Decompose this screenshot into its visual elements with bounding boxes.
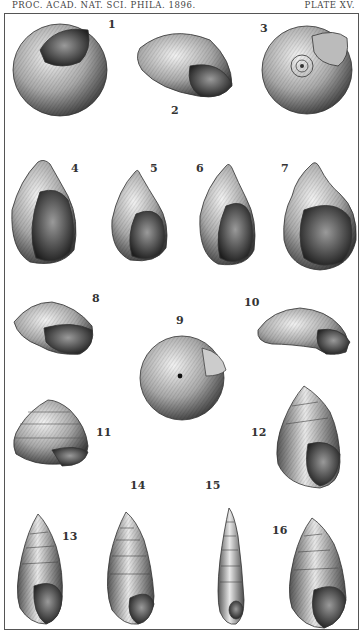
- figure-number-16: 16: [272, 524, 287, 537]
- figure-number-3: 3: [260, 22, 268, 35]
- shell-figure-16: [289, 518, 346, 628]
- figure-number-12: 12: [251, 426, 266, 439]
- shell-figure-8: [14, 302, 93, 354]
- shell-figure-3: [262, 26, 352, 114]
- shell-figure-11: [14, 400, 88, 466]
- figure-number-13: 13: [62, 530, 77, 543]
- shell-figure-13: [17, 514, 62, 624]
- shell-figure-15: [218, 508, 244, 624]
- figure-number-9: 9: [176, 314, 184, 327]
- figure-number-5: 5: [150, 162, 158, 175]
- figure-number-1: 1: [108, 18, 116, 31]
- shell-figure-1: [13, 24, 107, 116]
- shell-figure-9: [140, 336, 226, 420]
- figure-number-4: 4: [71, 162, 79, 175]
- shell-figure-12: [277, 386, 340, 488]
- shell-figure-10: [258, 308, 350, 354]
- figure-number-14: 14: [130, 479, 145, 492]
- figure-number-7: 7: [281, 162, 289, 175]
- figure-number-10: 10: [244, 296, 259, 309]
- figure-number-8: 8: [92, 292, 100, 305]
- shell-figure-14: [107, 512, 154, 624]
- shell-figure-5: [112, 170, 167, 260]
- shell-figure-4: [12, 160, 76, 263]
- figure-number-11: 11: [96, 426, 111, 439]
- shell-figure-2: [137, 34, 232, 97]
- figure-number-2: 2: [171, 104, 179, 117]
- figure-number-15: 15: [205, 479, 220, 492]
- shell-figure-7: [284, 163, 357, 270]
- shell-figure-6: [200, 164, 255, 264]
- figure-number-6: 6: [196, 162, 204, 175]
